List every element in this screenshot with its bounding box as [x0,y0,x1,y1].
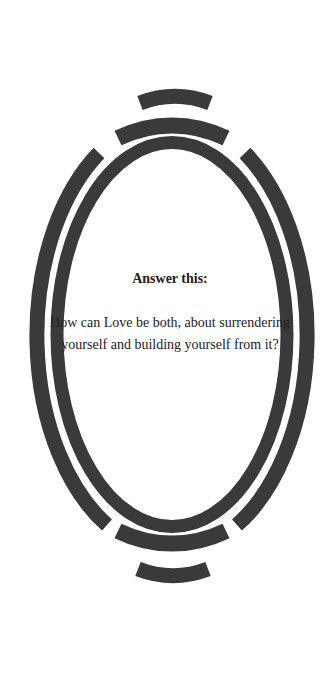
prompt-heading: Answer this: [70,270,270,288]
small-bottom-arc [138,569,208,576]
prompt-question: How can Love be both, about surrendering… [50,312,290,356]
prompt-card: Answer this: How can Love be both, about… [70,270,270,356]
small-top-arc [140,96,210,103]
